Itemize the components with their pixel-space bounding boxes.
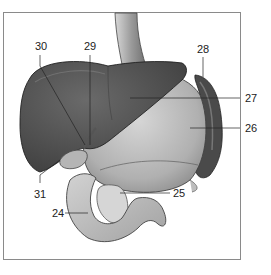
label-28: 28 xyxy=(197,44,209,55)
label-31: 31 xyxy=(34,189,46,200)
label-29: 29 xyxy=(84,41,96,52)
label-24: 24 xyxy=(52,208,64,219)
label-30: 30 xyxy=(35,41,47,52)
label-26: 26 xyxy=(245,123,257,134)
label-27: 27 xyxy=(245,93,257,104)
anatomy-figure: 24 25 26 27 28 29 30 31 xyxy=(0,0,271,275)
label-25: 25 xyxy=(173,188,185,199)
